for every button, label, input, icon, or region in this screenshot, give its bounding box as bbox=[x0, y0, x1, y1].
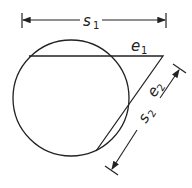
svg-text:1: 1 bbox=[141, 45, 147, 56]
svg-text:1: 1 bbox=[93, 20, 99, 31]
geometry-figure: s 1 e 1 s 2 e 2 bbox=[0, 0, 192, 188]
triangle-path bbox=[29, 56, 163, 151]
s1-dimension: s 1 bbox=[22, 12, 166, 31]
svg-text:e: e bbox=[131, 37, 140, 55]
circle bbox=[13, 40, 129, 156]
e1-label: e 1 bbox=[131, 37, 147, 56]
diagram: s 1 e 1 s 2 e 2 bbox=[0, 0, 192, 188]
s1-label: s bbox=[83, 12, 91, 30]
e2-label: e 2 bbox=[143, 78, 167, 101]
